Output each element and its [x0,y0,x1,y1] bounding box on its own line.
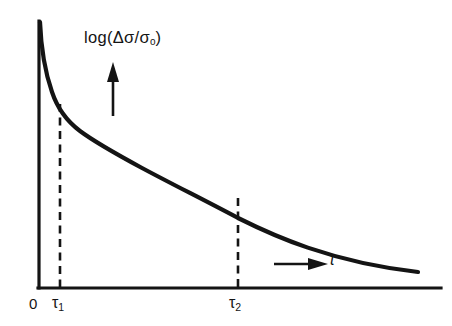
tau2-subscript: 2 [235,301,241,313]
y-axis-label: log(Δσ/σo) [84,29,161,47]
right-arrow-icon [308,258,328,270]
tau1-subscript: 1 [58,301,64,313]
y-axis-label-close: ) [155,28,161,46]
figure-container: log(Δσ/σo) t 0 τ1 τ2 [0,0,452,326]
y-axis-label-main: log(Δσ/σ [84,28,150,46]
stress-decay-curve [40,22,418,272]
tau2-label: τ2 [229,295,241,312]
origin-label: 0 [29,296,37,311]
up-arrow-icon [107,62,119,82]
plot-canvas [0,0,452,326]
x-axis-label: t [330,252,334,268]
tau1-label: τ1 [52,295,64,312]
